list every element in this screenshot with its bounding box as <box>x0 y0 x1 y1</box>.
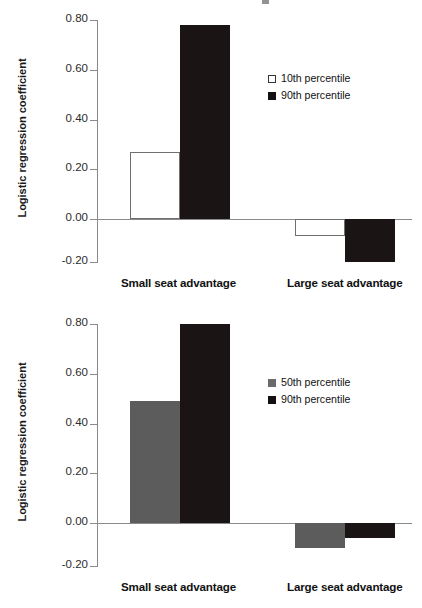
y-tick-label: 0.40 <box>34 416 88 428</box>
bar-top-large-90th <box>345 219 395 262</box>
y-axis-line <box>97 20 98 262</box>
y-tick-label: -0.20 <box>34 254 88 266</box>
legend-label: 50th percentile <box>281 374 351 391</box>
plot-area-bottom: 0.80 0.60 0.40 0.20 0.00 -0.20 <box>0 304 422 608</box>
y-tick-0: 0.80 <box>30 20 88 21</box>
bar-bottom-small-90th <box>180 324 230 523</box>
y-axis-line <box>97 324 98 566</box>
bar-bottom-large-90th <box>345 523 395 538</box>
y-tick-4: 0.00 <box>30 523 88 524</box>
y-tick-mark <box>90 424 98 425</box>
y-tick-label: 0.00 <box>34 515 88 527</box>
y-tick-label: 0.60 <box>34 62 88 74</box>
legend-swatch-black-icon <box>268 92 276 100</box>
y-tick-mark <box>90 374 98 375</box>
category-label-large-seat-advantage: Large seat advantage <box>287 276 403 289</box>
y-tick-label: 0.80 <box>34 316 88 328</box>
legend-label: 10th percentile <box>281 70 351 87</box>
y-tick-mark <box>90 262 98 263</box>
bar-top-small-90th <box>180 25 230 219</box>
y-tick-2: 0.40 <box>30 424 88 425</box>
legend-swatch-white-icon <box>268 75 276 83</box>
y-tick-3: 0.20 <box>30 473 88 474</box>
bar-bottom-small-50th <box>130 401 180 523</box>
y-tick-1: 0.60 <box>30 70 88 71</box>
y-tick-3: 0.20 <box>30 169 88 170</box>
y-tick-5: -0.20 <box>30 262 88 263</box>
y-tick-1: 0.60 <box>30 374 88 375</box>
y-tick-mark <box>90 120 98 121</box>
category-label-large-seat-advantage: Large seat advantage <box>287 580 403 593</box>
y-tick-label: 0.20 <box>34 161 88 173</box>
bar-top-large-10th <box>295 219 345 236</box>
legend-bottom: 50th percentile 90th percentile <box>268 374 351 408</box>
y-tick-label: 0.00 <box>34 211 88 223</box>
legend-label: 90th percentile <box>281 391 351 408</box>
plot-area-top: 0.80 0.60 0.40 0.20 0.00 -0.20 <box>0 0 422 304</box>
y-tick-4: 0.00 <box>30 219 88 220</box>
bar-bottom-large-50th <box>295 523 345 548</box>
y-tick-label: 0.20 <box>34 465 88 477</box>
y-tick-mark <box>90 20 98 21</box>
y-tick-mark <box>90 70 98 71</box>
y-tick-mark <box>90 566 98 567</box>
y-tick-label: 0.40 <box>34 112 88 124</box>
y-tick-label: -0.20 <box>34 558 88 570</box>
legend-item: 90th percentile <box>268 87 351 104</box>
y-tick-5: -0.20 <box>30 566 88 567</box>
category-label-small-seat-advantage: Small seat advantage <box>121 580 236 593</box>
y-tick-label: 0.80 <box>34 12 88 24</box>
bar-top-small-10th <box>130 152 180 219</box>
legend-item: 10th percentile <box>268 70 351 87</box>
legend-item: 50th percentile <box>268 374 351 391</box>
y-tick-0: 0.80 <box>30 324 88 325</box>
y-tick-mark <box>90 473 98 474</box>
legend-swatch-black-icon <box>268 396 276 404</box>
chart-panel-top: Logistic regression coefficient 0.80 0.6… <box>0 0 422 304</box>
y-tick-mark <box>90 219 98 220</box>
legend-label: 90th percentile <box>281 87 351 104</box>
legend-item: 90th percentile <box>268 391 351 408</box>
y-tick-mark <box>90 169 98 170</box>
y-tick-mark <box>90 324 98 325</box>
legend-top: 10th percentile 90th percentile <box>268 70 351 104</box>
y-tick-2: 0.40 <box>30 120 88 121</box>
y-tick-label: 0.60 <box>34 366 88 378</box>
y-tick-mark <box>90 523 98 524</box>
category-label-small-seat-advantage: Small seat advantage <box>121 276 236 289</box>
legend-swatch-gray-icon <box>268 379 276 387</box>
chart-panel-bottom: Logistic regression coefficient 0.80 0.6… <box>0 304 422 608</box>
